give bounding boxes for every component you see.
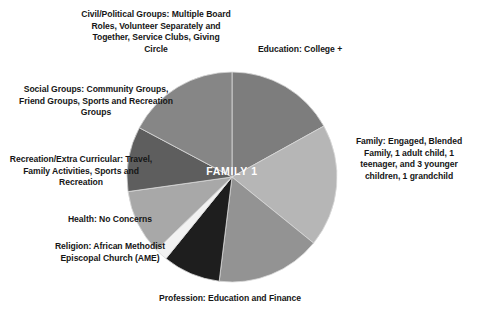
slice-label-family: Family: Engaged, Blended Family, 1 adult… xyxy=(346,136,472,182)
slice-label-health: Health: No Concerns xyxy=(20,214,152,226)
slice-label-religion: Religion: African Methodist Episcopal Ch… xyxy=(48,241,172,264)
pie-chart-figure: FAMILY 1 Civil/Political Groups: Multipl… xyxy=(0,0,477,331)
slice-label-profession: Profession: Education and Finance xyxy=(150,293,310,305)
pie-chart-page: FAMILY 1 Civil/Political Groups: Multipl… xyxy=(0,0,477,331)
slice-label-education: Education: College + xyxy=(246,44,354,56)
slice-label-social-groups: Social Groups: Community Groups, Friend … xyxy=(18,84,174,119)
slice-label-civil-political-groups: Civil/Political Groups: Multiple Board R… xyxy=(80,9,232,55)
slice-label-recreation-extra-curricular: Recreation/Extra Curricular: Travel, Fam… xyxy=(8,154,154,189)
pie-center-label: FAMILY 1 xyxy=(172,165,292,177)
